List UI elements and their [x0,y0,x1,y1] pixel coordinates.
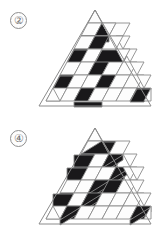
mosaic-tiles-2 [46,10,151,107]
mosaic-tiles-4 [46,128,151,225]
option-label-4: ④ [10,130,27,147]
answer-option-4[interactable]: ④ [0,118,156,236]
triangle-mosaic-svg-4 [38,124,152,232]
answer-option-2[interactable]: ② [0,0,156,118]
answer-choice-panel: ② [0,0,156,236]
triangle-mosaic-svg-2 [38,6,152,114]
triangle-figure-4 [38,124,152,232]
triangle-figure-2 [38,6,152,114]
option-label-2: ② [10,12,27,29]
